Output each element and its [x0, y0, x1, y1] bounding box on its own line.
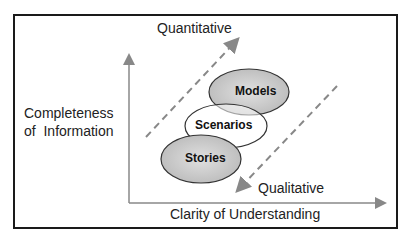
quantitative-label: Quantitative — [157, 20, 232, 36]
y-axis-label-line2: of Information — [24, 123, 114, 139]
y-axis-label-line1: Completeness — [24, 105, 114, 121]
stories-label: Stories — [185, 151, 226, 165]
x-axis-label: Clarity of Understanding — [170, 206, 320, 222]
scenarios-label: Scenarios — [195, 118, 252, 132]
models-label: Models — [235, 84, 276, 98]
qualitative-label: Qualitative — [258, 180, 324, 196]
